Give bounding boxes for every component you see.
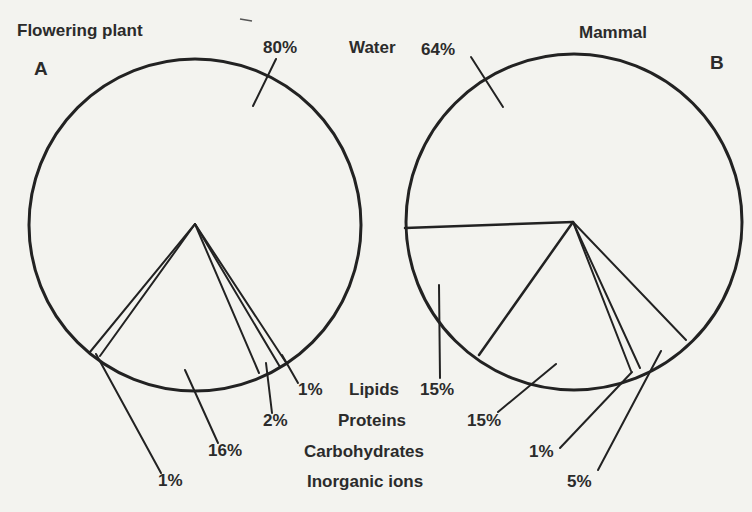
pie-a-water-pct: 80% [263, 39, 297, 56]
pie-a-leader-lipids [282, 355, 298, 383]
pie-b-leader-lipids [439, 285, 440, 378]
pie-a-inorganic-pct: 1% [158, 472, 183, 489]
pie-b-proteins-pct: 15% [467, 412, 501, 429]
pie-b-edge [573, 222, 640, 368]
pie-a-edge [90, 224, 195, 352]
pie-b-title: Mammal [579, 24, 647, 41]
pie-b-leader-carbohydrates [560, 372, 632, 448]
pie-a-edge [195, 224, 287, 364]
pie-a-edge [195, 224, 280, 367]
pie-a-leader-carbohydrates [185, 370, 218, 443]
pie-b-leader-water [471, 57, 503, 107]
pie-a-carbohydrates-pct: 16% [208, 442, 242, 459]
legend-lipids: Lipids [349, 381, 399, 398]
water-category-label: Water [349, 39, 396, 56]
pie-b [405, 54, 742, 470]
pie-b-water-pct: 64% [421, 41, 455, 58]
pie-a-leader-inorganic [96, 354, 161, 473]
pie-b-edge [573, 222, 631, 371]
pie-a-lipids-pct: 1% [298, 381, 323, 398]
pie-a-edge [100, 224, 195, 356]
pie-a-edge [195, 224, 259, 373]
stray-mark [240, 19, 252, 21]
legend-carbohydrates: Carbohydrates [304, 443, 424, 460]
legend-proteins: Proteins [338, 412, 406, 429]
figure-canvas: Flowering plant A Mammal B Water 80% 1% … [0, 0, 752, 512]
pie-b-carbohydrates-pct: 1% [529, 443, 554, 460]
pie-a-proteins-pct: 2% [263, 412, 288, 429]
pie-b-lipids-pct: 15% [420, 381, 454, 398]
pie-b-letter: B [710, 53, 724, 72]
pie-a-title: Flowering plant [17, 22, 143, 39]
pie-b-edge [405, 222, 573, 228]
pie-b-inorganic-pct: 5% [567, 473, 592, 490]
pie-a-leader-proteins [266, 363, 272, 413]
pie-a [29, 59, 361, 473]
pie-b-edge [573, 222, 686, 340]
pie-charts-figure [0, 0, 752, 512]
legend-inorganic-ions: Inorganic ions [307, 473, 423, 490]
pie-a-letter: A [34, 59, 48, 78]
pie-b-edge [479, 222, 573, 355]
pie-a-leader-water [253, 59, 276, 106]
